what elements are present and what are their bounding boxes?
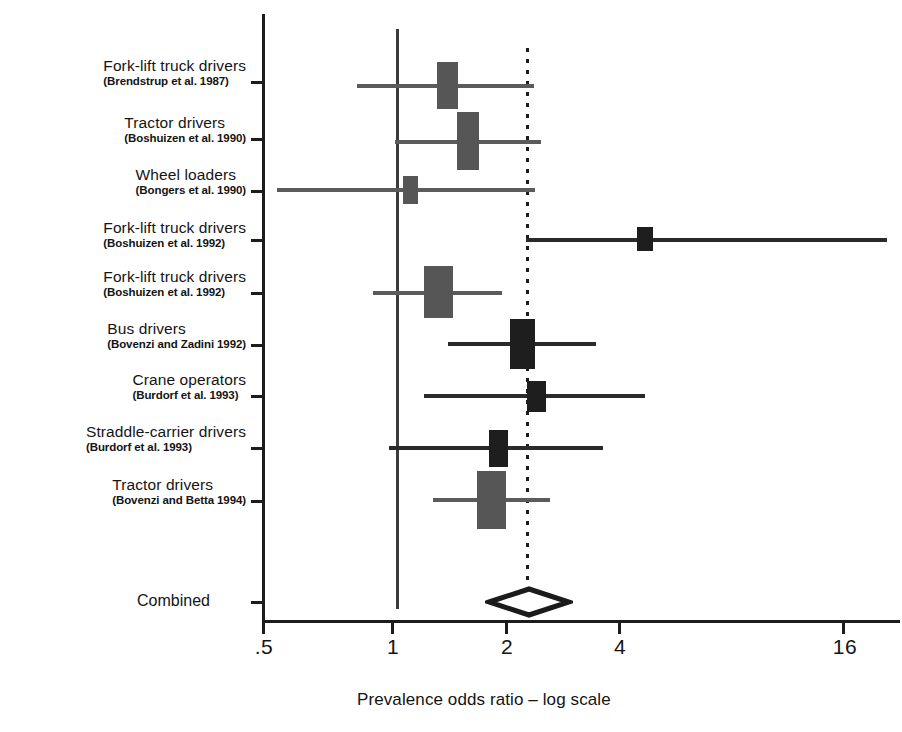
study-name: Wheel loaders: [136, 166, 246, 183]
x-axis-tick-label: 4: [614, 635, 626, 659]
x-axis-tick: [505, 623, 508, 634]
effect-marker: [489, 430, 508, 467]
study-label: Fork-lift truck drivers (Brendstrup et a…: [103, 57, 246, 88]
x-axis-tick-label: 2: [501, 635, 513, 659]
study-citation: (Boshuizen et al. 1990): [124, 132, 246, 145]
x-axis-tick: [842, 623, 845, 634]
combined-diamond: [485, 585, 573, 619]
study-labels-column: Fork-lift truck drivers (Brendstrup et a…: [0, 0, 252, 732]
x-axis-tick-label: 16: [833, 635, 857, 659]
study-name: Fork-lift truck drivers: [103, 268, 246, 285]
study-label: Tractor drivers (Bovenzi and Betta 1994): [112, 476, 246, 507]
study-name: Straddle-carrier drivers: [86, 423, 246, 440]
effect-marker: [424, 266, 453, 318]
y-axis-tick: [251, 447, 262, 450]
y-axis-tick-combined: [251, 601, 262, 604]
study-label: Straddle-carrier drivers (Burdorf et al.…: [86, 423, 246, 454]
y-axis-tick: [251, 239, 262, 242]
study-citation: (Boshuizen et al. 1992): [103, 237, 246, 250]
effect-marker: [637, 227, 653, 251]
x-axis-tick-label: 1: [387, 635, 399, 659]
x-axis-tick: [262, 623, 265, 634]
y-axis-line: [262, 14, 265, 621]
effect-marker: [437, 62, 458, 109]
effect-marker: [457, 112, 479, 170]
y-axis-tick: [251, 500, 262, 503]
study-citation: (Burdorf et al. 1993): [86, 441, 246, 454]
study-label: Crane operators (Burdorf et al. 1993): [132, 371, 246, 402]
study-label: Wheel loaders (Bongers et al. 1990): [136, 166, 246, 197]
x-axis-tick: [618, 623, 621, 634]
y-axis-tick: [251, 395, 262, 398]
study-citation: (Bongers et al. 1990): [136, 184, 246, 197]
effect-marker: [477, 471, 506, 529]
study-citation: (Burdorf et al. 1993): [132, 389, 246, 402]
study-label: Fork-lift truck drivers (Boshuizen et al…: [103, 268, 246, 299]
study-citation: (Boshuizen et al. 1992): [103, 286, 246, 299]
reference-line-null: [396, 29, 399, 609]
study-label: Bus drivers (Bovenzi and Zadini 1992): [107, 320, 246, 351]
study-name: Tractor drivers: [112, 476, 246, 493]
y-axis-tick: [251, 190, 262, 193]
y-axis-tick: [251, 138, 262, 141]
study-name: Tractor drivers: [124, 114, 246, 131]
x-axis-title: Prevalence odds ratio – log scale: [357, 690, 611, 710]
y-axis-tick: [251, 344, 262, 347]
study-name: Bus drivers: [107, 320, 246, 337]
forest-plot: Fork-lift truck drivers (Brendstrup et a…: [0, 0, 902, 732]
y-axis-tick: [251, 81, 262, 84]
x-axis-tick-label: .5: [255, 635, 274, 659]
x-axis-tick: [391, 623, 394, 634]
effect-marker: [527, 381, 546, 412]
study-citation: (Bovenzi and Zadini 1992): [107, 338, 246, 351]
confidence-interval: [526, 238, 887, 242]
y-axis-tick: [251, 292, 262, 295]
study-citation: (Bovenzi and Betta 1994): [112, 494, 246, 507]
study-name: Fork-lift truck drivers: [103, 57, 246, 74]
study-name: Fork-lift truck drivers: [103, 219, 246, 236]
study-label: Fork-lift truck drivers (Boshuizen et al…: [103, 219, 246, 250]
study-label: Tractor drivers (Boshuizen et al. 1990): [124, 114, 246, 145]
study-citation: (Brendstrup et al. 1987): [103, 75, 246, 88]
combined-label: Combined: [137, 592, 210, 610]
effect-marker: [403, 176, 418, 204]
effect-marker: [510, 319, 535, 369]
x-axis-line: [262, 620, 900, 623]
study-name: Crane operators: [132, 371, 246, 388]
